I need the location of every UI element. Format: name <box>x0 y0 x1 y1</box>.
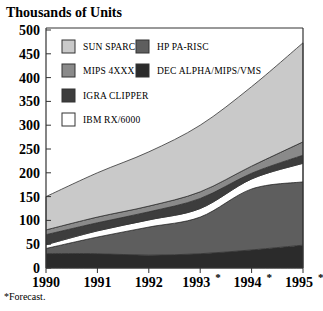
legend-swatch <box>136 40 149 53</box>
legend-swatch <box>62 64 75 77</box>
y-tick-label: 400 <box>19 71 40 86</box>
y-tick-label: 250 <box>19 142 40 157</box>
x-tick-label: 1994 <box>234 275 262 290</box>
legend-label: MIPS 4XXX <box>83 66 135 76</box>
stacked-area-chart: Thousands of Units 050100150200250300350… <box>0 0 323 311</box>
legend-label: DEC ALPHA/MIPS/VMS <box>157 66 261 76</box>
legend-label: SUN SPARC <box>83 42 135 52</box>
forecast-asterisk: * <box>215 271 221 283</box>
x-tick-label: 1991 <box>83 275 111 290</box>
y-tick-label: 300 <box>19 118 40 133</box>
y-tick-label: 450 <box>19 47 40 62</box>
legend-label: HP PA-RISC <box>157 42 209 52</box>
y-tick-label: 200 <box>19 166 40 181</box>
legend-swatch <box>136 64 149 77</box>
y-tick-label: 350 <box>19 94 40 109</box>
forecast-asterisk: * <box>267 271 273 283</box>
x-tick-label: 1993 <box>182 275 210 290</box>
x-tick-label: 1995 <box>285 275 313 290</box>
legend-label: IGRA CLIPPER <box>83 91 149 101</box>
y-tick-label: 50 <box>26 237 40 252</box>
x-tick-label: 1992 <box>135 275 163 290</box>
legend-label: IBM RX/6000 <box>83 115 140 125</box>
y-tick-label: 500 <box>19 23 40 38</box>
legend-swatch <box>62 40 75 53</box>
y-tick-label: 100 <box>19 213 40 228</box>
x-tick-label: 1990 <box>32 275 60 290</box>
y-tick-label: 0 <box>33 261 40 276</box>
plot-areas <box>46 43 303 268</box>
y-tick-label: 150 <box>19 190 40 205</box>
forecast-asterisk: * <box>318 271 323 283</box>
footnote: *Forecast. <box>4 291 45 302</box>
chart-title: Thousands of Units <box>6 5 122 20</box>
legend-swatch <box>62 113 75 126</box>
legend-swatch <box>62 89 75 102</box>
